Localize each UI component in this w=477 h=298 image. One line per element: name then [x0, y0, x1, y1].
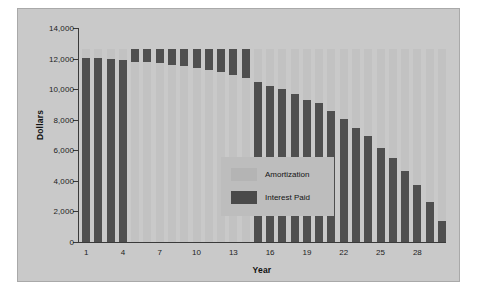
bar-year-10: [193, 49, 201, 242]
bar-year-7: [156, 49, 164, 242]
y-axis-line: [78, 28, 79, 243]
bar-segment-amortization: [389, 49, 397, 158]
bar-segment-amortization: [413, 49, 421, 184]
bar-segment-amortization: [266, 49, 274, 85]
bar-year-26: [389, 49, 397, 242]
legend-label-amortization: Amortization: [265, 170, 309, 179]
bar-segment-amortization: [315, 49, 323, 103]
plot-area: 02,0004,0006,0008,00010,00012,00014,000 …: [78, 28, 446, 250]
bar-year-27: [401, 49, 409, 242]
legend-swatch-amortization: [231, 168, 257, 181]
bar-segment-amortization: [377, 49, 385, 147]
bar-year-23: [352, 49, 360, 242]
y-tick-label: 0: [69, 238, 74, 247]
bar-segment-interest-paid: [340, 119, 348, 242]
x-tick-label: 28: [413, 248, 422, 257]
bar-segment-amortization: [107, 49, 115, 58]
bar-year-11: [205, 49, 213, 242]
x-axis-title: Year: [253, 265, 272, 275]
x-tick-label: 4: [121, 248, 125, 257]
bar-segment-interest-paid: [364, 136, 372, 242]
y-tick-label: 12,000: [49, 54, 74, 63]
x-tick-label: 16: [266, 248, 275, 257]
x-tick-label: 7: [157, 248, 161, 257]
chart-screenshot: Dollars Year 02,0004,0006,0008,00010,000…: [0, 0, 477, 298]
bar-segment-amortization: [291, 49, 299, 93]
bar-segment-amortization: [254, 49, 262, 81]
bar-year-25: [377, 49, 385, 242]
y-axis-title: Dollars: [35, 110, 45, 140]
x-axis-line: [78, 242, 446, 243]
bar-segment-interest-paid: [193, 49, 201, 67]
y-tick-label: 14,000: [49, 24, 74, 33]
bar-segment-interest-paid: [94, 58, 102, 242]
bar-segment-amortization: [180, 66, 188, 242]
bar-year-8: [168, 49, 176, 242]
bar-year-4: [119, 49, 127, 242]
x-tick-label: 1: [84, 248, 88, 257]
y-tick-label: 6,000: [53, 146, 74, 155]
bar-segment-interest-paid: [143, 49, 151, 62]
bar-segment-amortization: [303, 49, 311, 99]
bar-year-1: [82, 49, 90, 242]
bar-segment-interest-paid: [131, 49, 139, 61]
bar-segment-interest-paid: [389, 158, 397, 242]
bar-year-29: [426, 49, 434, 242]
bar-segment-amortization: [119, 49, 127, 60]
bar-year-9: [180, 49, 188, 242]
bar-year-30: [438, 49, 446, 242]
bar-year-5: [131, 49, 139, 242]
bar-segment-interest-paid: [168, 49, 176, 64]
bar-segment-amortization: [364, 49, 372, 135]
bar-segment-interest-paid: [156, 49, 164, 63]
bar-segment-amortization: [401, 49, 409, 171]
bar-segment-amortization: [352, 49, 360, 128]
x-tick-label: 22: [339, 248, 348, 257]
chart-legend: Amortization Interest Paid: [221, 157, 334, 216]
bar-segment-amortization: [82, 49, 90, 57]
bar-segment-interest-paid: [180, 49, 188, 66]
bar-segment-amortization: [278, 49, 286, 89]
bar-segment-amortization: [327, 49, 335, 111]
bar-segment-interest-paid: [205, 49, 213, 70]
bar-segment-interest-paid: [229, 49, 237, 74]
x-tick-label: 13: [229, 248, 238, 257]
bar-segment-amortization: [94, 49, 102, 57]
bar-segment-amortization: [340, 49, 348, 119]
bar-year-3: [107, 49, 115, 242]
bar-segment-interest-paid: [413, 185, 421, 242]
bar-segment-amortization: [131, 62, 139, 242]
bar-segment-amortization: [205, 70, 213, 242]
x-tick-label: 19: [302, 248, 311, 257]
bar-segment-interest-paid: [242, 49, 250, 77]
legend-swatch-interest-paid: [231, 191, 257, 204]
bar-segment-interest-paid: [107, 59, 115, 242]
bar-segment-amortization: [193, 68, 201, 242]
bar-segment-interest-paid: [401, 171, 409, 242]
bar-segment-amortization: [426, 49, 434, 202]
bar-segment-interest-paid: [119, 60, 127, 242]
bar-segment-amortization: [143, 62, 151, 242]
y-tick-label: 2,000: [53, 207, 74, 216]
bar-year-22: [340, 49, 348, 242]
bar-segment-interest-paid: [426, 202, 434, 242]
bar-segment-interest-paid: [82, 58, 90, 242]
bar-year-2: [94, 49, 102, 242]
x-tick-label: 10: [192, 248, 201, 257]
bar-segment-interest-paid: [352, 128, 360, 242]
bar-segment-amortization: [438, 49, 446, 221]
legend-label-interest-paid: Interest Paid: [265, 193, 310, 202]
x-tick-label: 25: [376, 248, 385, 257]
y-tick-label: 8,000: [53, 115, 74, 124]
y-tick-label: 4,000: [53, 176, 74, 185]
chart-figure-panel: Dollars Year 02,0004,0006,0008,00010,000…: [17, 8, 460, 282]
bar-year-6: [143, 49, 151, 242]
bar-segment-interest-paid: [438, 221, 446, 242]
y-tick-label: 10,000: [49, 85, 74, 94]
bar-year-28: [413, 49, 421, 242]
bar-segment-amortization: [168, 65, 176, 242]
bar-segment-amortization: [156, 63, 164, 242]
bar-segment-interest-paid: [377, 148, 385, 242]
bar-segment-interest-paid: [217, 49, 225, 72]
bar-year-24: [364, 49, 372, 242]
